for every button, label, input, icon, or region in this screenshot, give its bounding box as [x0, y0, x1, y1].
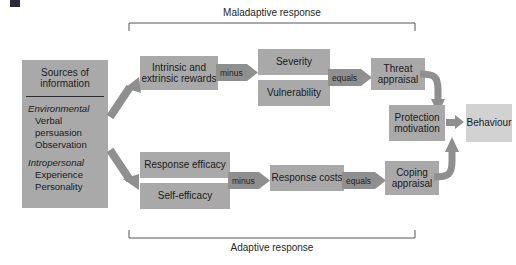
environmental-label: Environmental	[28, 103, 104, 115]
maladaptive-bracket	[128, 22, 416, 32]
environmental-item-1: Observation	[28, 139, 104, 151]
response-efficacy-box: Response efficacy	[140, 152, 230, 178]
arrow-motivation-to-behaviour	[446, 119, 455, 126]
behaviour-box: Behaviour	[466, 104, 512, 142]
equals-connector-bottom-label: equals	[346, 176, 371, 186]
adaptive-bracket-label: Adaptive response	[128, 242, 416, 253]
self-efficacy-box: Self-efficacy	[140, 183, 230, 209]
equals-connector-top: equals	[328, 69, 372, 86]
diagram-canvas: Maladaptive response Adaptive response S…	[0, 0, 516, 265]
adaptive-bracket	[128, 229, 416, 239]
minus-connector-top-label: minus	[220, 68, 243, 78]
severity-box: Severity	[258, 49, 330, 75]
sources-of-information-box: Sources of information Environmental Ver…	[22, 60, 108, 208]
minus-connector-top: minus	[216, 64, 258, 81]
response-costs-box: Response costs	[270, 165, 344, 191]
threat-appraisal-box: Threat appraisal	[371, 58, 425, 90]
intropersonal-item-0: Experience	[28, 169, 104, 181]
minus-connector-bottom: minus	[228, 172, 270, 189]
environmental-item-0: Verbal persuasion	[28, 115, 104, 139]
equals-connector-bottom: equals	[342, 172, 386, 189]
equals-connector-top-label: equals	[332, 73, 357, 83]
coping-appraisal-box: Coping appraisal	[385, 161, 439, 195]
intrinsic-extrinsic-rewards-box: Intrinsic and extrinsic rewards	[140, 56, 218, 90]
figure-caption-marker	[10, 0, 20, 7]
sources-group-intropersonal: Intropersonal Experience Personality	[22, 151, 108, 193]
sources-group-environmental: Environmental Verbal persuasion Observat…	[22, 97, 108, 151]
intropersonal-label: Intropersonal	[28, 157, 104, 169]
sources-title: Sources of information	[22, 60, 108, 96]
maladaptive-bracket-label: Maladaptive response	[128, 7, 416, 18]
minus-connector-bottom-label: minus	[232, 176, 255, 186]
vulnerability-box: Vulnerability	[258, 80, 330, 106]
intropersonal-item-1: Personality	[28, 181, 104, 193]
protection-motivation-box: Protection motivation	[389, 105, 445, 141]
